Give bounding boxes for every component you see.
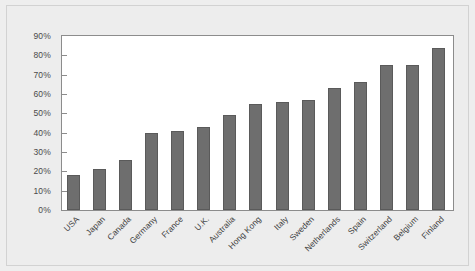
bar-slot xyxy=(62,36,86,210)
x-label-slot: Germany xyxy=(140,212,164,270)
x-label-slot: Italy xyxy=(271,212,295,270)
bar xyxy=(171,131,184,210)
bar-slot xyxy=(192,36,216,210)
chart-card: 0%10%20%30%40%50%60%70%80%90% USAJapanCa… xyxy=(6,5,469,266)
bar-slot xyxy=(375,36,399,210)
x-label-slot: Belgium xyxy=(401,212,425,270)
y-axis: 0%10%20%30%40%50%60%70%80%90% xyxy=(7,30,57,216)
x-label-slot: Netherlands xyxy=(323,212,347,270)
bar-slot xyxy=(323,36,347,210)
bar xyxy=(223,115,236,210)
bar xyxy=(67,175,80,210)
bars-layer xyxy=(62,36,453,210)
chart-figure: 0%10%20%30%40%50%60%70%80%90% USAJapanCa… xyxy=(0,0,475,271)
bar xyxy=(432,48,445,210)
x-axis-category-label: Italy xyxy=(271,214,289,232)
bar-slot xyxy=(88,36,112,210)
bar-slot xyxy=(244,36,268,210)
bar xyxy=(145,133,158,210)
bar xyxy=(93,169,106,210)
x-label-slot: Japan xyxy=(88,212,112,270)
y-axis-tick-label: 20% xyxy=(33,166,51,176)
x-axis-category-label: U.K. xyxy=(193,214,212,233)
bar xyxy=(249,104,262,210)
bar-slot xyxy=(271,36,295,210)
bar-slot xyxy=(297,36,321,210)
x-axis-category-label: Japan xyxy=(84,214,107,237)
y-axis-tick-label: 40% xyxy=(33,128,51,138)
bar xyxy=(328,88,341,210)
y-axis-tick-label: 90% xyxy=(33,31,51,41)
x-axis-category-label: USA xyxy=(62,214,81,233)
y-axis-tick-label: 80% xyxy=(33,50,51,60)
y-axis-tick-label: 70% xyxy=(33,70,51,80)
bar-slot xyxy=(218,36,242,210)
x-axis-category-label: Spain xyxy=(345,214,367,236)
y-axis-tick-label: 60% xyxy=(33,89,51,99)
y-axis-tick-label: 0% xyxy=(38,205,51,215)
bar xyxy=(354,82,367,210)
bar-slot xyxy=(166,36,190,210)
bar xyxy=(406,65,419,210)
x-label-slot: Finland xyxy=(427,212,451,270)
y-axis-tick-label: 30% xyxy=(33,147,51,157)
y-axis-tick-label: 50% xyxy=(33,108,51,118)
bar-slot xyxy=(114,36,138,210)
x-label-slot: Hong Kong xyxy=(244,212,268,270)
x-axis: USAJapanCanadaGermanyFranceU.K.Australia… xyxy=(62,212,453,271)
x-label-slot: France xyxy=(166,212,190,270)
bar-slot xyxy=(140,36,164,210)
bar-slot xyxy=(349,36,373,210)
bar xyxy=(197,127,210,210)
x-label-slot: USA xyxy=(62,212,86,270)
bar xyxy=(380,65,393,210)
bar xyxy=(119,160,132,210)
bar xyxy=(276,102,289,210)
bar-slot xyxy=(427,36,451,210)
bar-slot xyxy=(401,36,425,210)
x-label-slot: Switzerland xyxy=(375,212,399,270)
bar xyxy=(302,100,315,210)
y-axis-tick-label: 10% xyxy=(33,186,51,196)
